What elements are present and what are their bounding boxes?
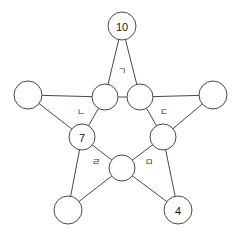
label-region-right: ㄷ — [160, 107, 168, 117]
label-region-bottom-right: ㅁ — [145, 157, 153, 167]
node-outer-right[interactable] — [199, 81, 227, 109]
node-circle-inner-right[interactable] — [150, 124, 176, 150]
node-outer-left[interactable] — [14, 81, 42, 109]
node-inner-top-left[interactable] — [92, 84, 118, 110]
node-outer-bottom-left[interactable] — [54, 196, 82, 224]
node-inner-right[interactable] — [150, 124, 176, 150]
node-outer-top[interactable]: 10 — [108, 12, 136, 40]
node-label-inner-left: 7 — [79, 132, 85, 144]
node-circle-inner-bottom[interactable] — [109, 155, 135, 181]
node-label-outer-top: 10 — [116, 21, 128, 33]
node-circle-inner-top-left[interactable] — [92, 84, 118, 110]
label-region-top: ㄱ — [118, 66, 126, 76]
node-inner-bottom[interactable] — [109, 155, 135, 181]
node-circle-outer-left[interactable] — [14, 81, 42, 109]
node-inner-top-right[interactable] — [127, 84, 153, 110]
node-inner-left[interactable]: 7 — [69, 124, 95, 150]
label-region-bottom-left: ㄹ — [92, 157, 100, 167]
node-circle-outer-bottom-left[interactable] — [54, 196, 82, 224]
node-label-outer-bottom-right: 4 — [175, 205, 181, 217]
nodes-group: 1047 — [14, 12, 227, 224]
region-labels-group: ㄱㄴㄷㄹㅁ — [77, 66, 168, 167]
node-circle-inner-top-right[interactable] — [127, 84, 153, 110]
edges-group — [28, 26, 213, 210]
node-circle-outer-right[interactable] — [199, 81, 227, 109]
label-region-left: ㄴ — [77, 107, 85, 117]
node-outer-bottom-right[interactable]: 4 — [164, 196, 192, 224]
star-diagram-canvas: 1047 ㄱㄴㄷㄹㅁ — [0, 0, 240, 234]
pentagram-diagram: 1047 ㄱㄴㄷㄹㅁ — [0, 0, 240, 234]
